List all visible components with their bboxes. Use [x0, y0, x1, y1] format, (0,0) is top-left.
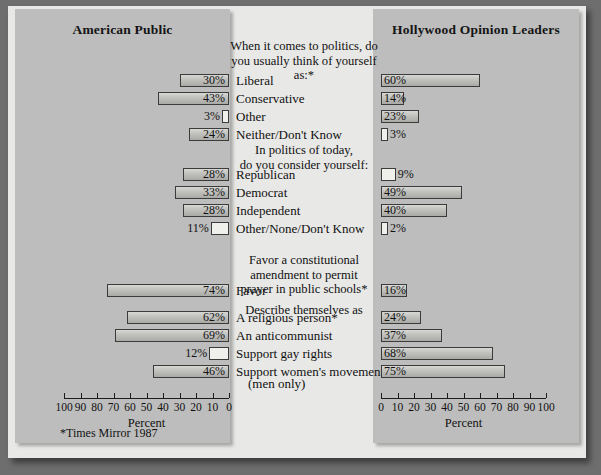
chart-page: American Public Hollywood Opinion Leader…	[8, 6, 586, 458]
bar-value-hollywood-leaders: 49%	[384, 185, 406, 199]
axis-tick	[480, 393, 481, 398]
bar-value-hollywood-leaders: 2%	[390, 221, 406, 235]
bar-value-hollywood-leaders: 60%	[384, 73, 406, 87]
bar-value-hollywood-leaders: 16%	[384, 283, 406, 297]
bar-hollywood-leaders	[381, 168, 396, 181]
group-heading-line: When it comes to politics, do	[230, 39, 378, 54]
axis-tick	[114, 393, 115, 398]
bar-value-american-public: 24%	[189, 127, 225, 141]
row-label: Independent	[236, 202, 372, 220]
axis-tick	[398, 393, 399, 398]
axis-tick	[213, 393, 214, 398]
axis-tick	[497, 393, 498, 398]
bar-value-hollywood-leaders: 9%	[398, 167, 414, 181]
row-label: A religious person*	[236, 309, 372, 327]
bar-value-american-public: 12%	[175, 346, 207, 360]
row-label: Democrat	[236, 184, 372, 202]
row-label: Support gay rights	[236, 345, 372, 363]
bar-value-hollywood-leaders: 40%	[384, 203, 406, 217]
bar-value-american-public: 28%	[183, 203, 225, 217]
row-label: Other	[236, 108, 372, 126]
axis-title: Percent	[404, 416, 524, 431]
bar-value-hollywood-leaders: 68%	[384, 346, 406, 360]
bar-value-hollywood-leaders: 37%	[384, 328, 406, 342]
bar-value-american-public: 33%	[175, 185, 225, 199]
chart-row: Support gay rights12%68%	[8, 345, 586, 363]
chart-row: Democrat33%49%	[8, 184, 586, 202]
bar-value-hollywood-leaders: 24%	[384, 310, 406, 324]
row-label: Republican	[236, 166, 372, 184]
bar-american-public	[209, 347, 229, 360]
axis-tick	[163, 393, 164, 398]
group-heading-line: In politics of today,	[230, 143, 378, 158]
axis-tick-label: 100	[535, 401, 557, 413]
axis-tick	[130, 393, 131, 398]
chart-row: Liberal30%60%	[8, 72, 586, 90]
axis-tick	[381, 393, 382, 398]
group-heading-line: amendment to permit	[230, 268, 378, 283]
row-label: Liberal	[236, 72, 372, 90]
axis-tick	[431, 393, 432, 398]
bar-value-american-public: 28%	[183, 167, 225, 181]
row-label: (men only)	[248, 375, 384, 393]
bar-value-hollywood-leaders: 3%	[390, 127, 406, 141]
axis-tick	[530, 393, 531, 398]
bar-value-american-public: 30%	[180, 73, 226, 87]
chart-row: Independent28%40%	[8, 202, 586, 220]
row-label: Conservative	[236, 90, 372, 108]
axis-tick	[546, 393, 547, 398]
chart-row: Other/None/Don't Know11%2%	[8, 220, 586, 238]
axis-tick	[414, 393, 415, 398]
chart-row: An anticommunist69%37%	[8, 327, 586, 345]
bar-value-american-public: 3%	[188, 109, 220, 123]
axis-tick	[180, 393, 181, 398]
bar-value-american-public: 62%	[127, 310, 225, 324]
chart-row: Other3%23%	[8, 108, 586, 126]
bar-american-public	[222, 110, 229, 123]
group-heading-line: Favor a constitutional	[230, 253, 378, 268]
axis-tick-label: 0	[218, 401, 240, 413]
chart-row: A religious person*62%24%	[8, 309, 586, 327]
axis-tick	[196, 393, 197, 398]
row-label: Neither/Don't Know	[236, 126, 372, 144]
row-label: An anticommunist	[236, 327, 372, 345]
bar-hollywood-leaders	[381, 128, 388, 141]
bar-value-american-public: 74%	[107, 283, 225, 297]
bidirectional-bar-chart: When it comes to politics, doyou usually…	[8, 6, 586, 458]
chart-row: Republican28%9%	[8, 166, 586, 184]
chart-row: (men only)	[8, 375, 586, 393]
bar-hollywood-leaders	[381, 222, 388, 235]
row-label: Other/None/Don't Know	[236, 220, 372, 238]
left-axis	[64, 398, 229, 399]
axis-tick	[147, 393, 148, 398]
right-axis	[381, 398, 546, 399]
bar-value-american-public: 11%	[177, 221, 209, 235]
bar-american-public	[211, 222, 229, 235]
axis-tick	[229, 393, 230, 398]
bar-value-american-public: 43%	[158, 91, 225, 105]
axis-tick	[97, 393, 98, 398]
bar-value-hollywood-leaders: 23%	[384, 109, 406, 123]
axis-tick	[447, 393, 448, 398]
axis-tick	[513, 393, 514, 398]
chart-row: Neither/Don't Know24%3%	[8, 126, 586, 144]
row-label: Favor	[236, 282, 372, 300]
chart-row: Conservative43%14%	[8, 90, 586, 108]
axis-tick	[464, 393, 465, 398]
bar-value-hollywood-leaders: 14%	[384, 91, 406, 105]
axis-tick	[81, 393, 82, 398]
bar-value-american-public: 69%	[115, 328, 225, 342]
chart-row: Favor74%16%	[8, 282, 586, 300]
axis-tick	[64, 393, 65, 398]
footnote: *Times Mirror 1987	[60, 426, 158, 441]
